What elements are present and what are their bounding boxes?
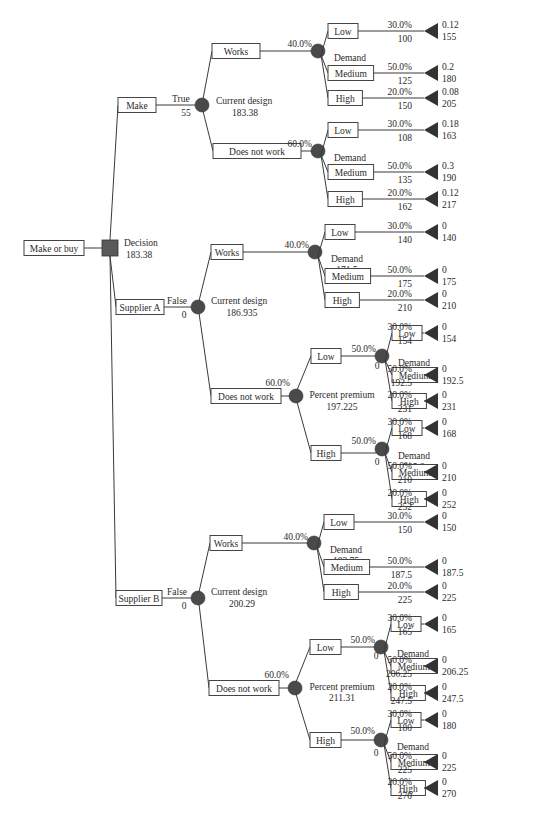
demand-chance-node-icon: [308, 245, 322, 259]
branch-works[interactable]: Works: [211, 245, 243, 260]
premium-probability: 50.0%: [351, 436, 376, 446]
outcome-high[interactable]: High: [325, 293, 359, 308]
outcome-medium-label: Medium: [335, 168, 368, 178]
terminal-probability: 0.12: [442, 20, 459, 30]
terminal-node-icon: [424, 325, 438, 341]
terminal-probability: 0: [442, 390, 447, 400]
premium-low[interactable]: Low: [310, 640, 341, 655]
outcome-medium[interactable]: Medium: [325, 269, 371, 284]
outcome-value: 108: [398, 133, 413, 143]
outcome-value: 154: [398, 336, 413, 346]
current-design-chance-node-icon: [191, 300, 205, 314]
outcome-medium[interactable]: Medium: [328, 165, 374, 180]
outcome-value: 225: [398, 595, 413, 605]
option-make[interactable]: Make: [118, 98, 156, 113]
percent-premium-name: Percent premium: [309, 390, 375, 400]
outcome-low-label: Low: [330, 518, 348, 528]
terminal-value: 210: [442, 473, 457, 483]
outcome-probability: 30.0%: [387, 613, 412, 623]
option-make-label: Make: [126, 101, 148, 111]
outcome-value: 210: [398, 303, 413, 313]
outcome-probability: 30.0%: [387, 322, 412, 332]
decision-node-value: 183.38: [126, 250, 152, 260]
outcome-probability: 20.0%: [387, 188, 412, 198]
outcome-medium-label: Medium: [335, 69, 368, 79]
terminal-value: 247.5: [442, 694, 464, 704]
outcome-medium-label: Medium: [332, 272, 365, 282]
outcome-low[interactable]: Low: [325, 225, 355, 240]
option-selected-flag: True: [172, 94, 190, 104]
terminal-probability: 0: [442, 556, 447, 566]
outcome-probability: 20.0%: [387, 581, 412, 591]
outcome-medium[interactable]: Medium: [324, 560, 370, 575]
branch-works-label: Works: [214, 539, 239, 549]
option-supplier-b[interactable]: Supplier B: [116, 591, 162, 606]
outcome-high[interactable]: High: [324, 585, 358, 600]
premium-high[interactable]: High: [311, 446, 341, 461]
branch-probability: 40.0%: [284, 240, 309, 250]
premium-low[interactable]: Low: [311, 349, 341, 364]
terminal-probability: 0.3: [442, 161, 454, 171]
outcome-probability: 50.0%: [387, 461, 412, 471]
outcome-probability: 20.0%: [387, 87, 412, 97]
terminal-probability: 0: [442, 461, 447, 471]
terminal-node-icon: [424, 685, 438, 701]
demand-node-name: Demand: [398, 451, 430, 461]
outcome-low[interactable]: Low: [324, 515, 354, 530]
outcome-low[interactable]: Low: [328, 123, 358, 138]
outcome-low[interactable]: Low: [328, 24, 358, 39]
terminal-value: 206.25: [442, 667, 468, 677]
terminal-node-icon: [424, 584, 438, 600]
demand-chance-node-icon: [311, 44, 325, 58]
premium-low-label: Low: [317, 643, 335, 653]
terminal-node-icon: [424, 90, 438, 106]
outcome-value: 270: [398, 791, 413, 801]
terminal-node-icon: [424, 514, 438, 530]
outcome-value: 187.5: [391, 570, 413, 580]
terminal-value: 175: [442, 277, 457, 287]
branch-probability: 40.0%: [287, 39, 312, 49]
premium-high[interactable]: High: [310, 733, 341, 748]
outcome-value: 206.25: [386, 669, 412, 679]
terminal-node-icon: [424, 122, 438, 138]
decision-node-icon: [102, 240, 118, 256]
demand-chance-node-icon: [375, 442, 389, 456]
branch-probability: 60.0%: [287, 139, 312, 149]
outcome-probability: 50.0%: [387, 364, 412, 374]
outcome-value: 180: [398, 723, 413, 733]
demand-chance-node-icon: [307, 536, 321, 550]
outcome-medium[interactable]: Medium: [328, 66, 374, 81]
branch-does-not-work-label: Does not work: [216, 684, 272, 694]
branch-works-label: Works: [224, 47, 249, 57]
terminal-probability: 0: [442, 488, 447, 498]
outcome-probability: 30.0%: [387, 20, 412, 30]
terminal-value: 140: [442, 233, 457, 243]
branch-does-not-work[interactable]: Does not work: [211, 389, 281, 404]
terminal-node-icon: [424, 191, 438, 207]
current-design-value: 186.935: [227, 308, 258, 318]
outcome-high[interactable]: High: [328, 192, 362, 207]
demand-node-name: Demand: [331, 254, 363, 264]
terminal-probability: 0: [442, 682, 447, 692]
option-supplier-a[interactable]: Supplier A: [116, 300, 164, 315]
root-make-or-buy[interactable]: Make or buy: [24, 241, 84, 256]
branch-works[interactable]: Works: [210, 536, 242, 551]
terminal-probability: 0: [442, 289, 447, 299]
premium-high-label: High: [317, 449, 336, 459]
option-supplier-b-label: Supplier B: [119, 594, 160, 604]
terminal-value: 190: [442, 173, 457, 183]
current-design-name: Current design: [211, 587, 267, 597]
outcome-value: 100: [398, 34, 413, 44]
branch-works[interactable]: Works: [212, 44, 260, 59]
premium-probability: 50.0%: [350, 726, 375, 736]
terminal-node-icon: [424, 780, 438, 796]
branch-does-not-work[interactable]: Does not work: [209, 681, 279, 696]
terminal-probability: 0: [442, 417, 447, 427]
option-cost: 0: [182, 310, 187, 320]
premium-cost: 0: [374, 748, 379, 758]
option-supplier-a-label: Supplier A: [120, 303, 161, 313]
premium-cost: 0: [375, 457, 380, 467]
terminal-value: 180: [442, 74, 457, 84]
outcome-high[interactable]: High: [328, 91, 362, 106]
outcome-probability: 50.0%: [387, 265, 412, 275]
